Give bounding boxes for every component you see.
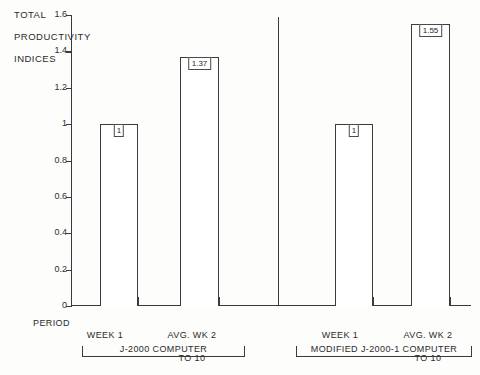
bar-modified-avg-wk2-10: 1.55 [411,24,450,306]
bracket-underline [82,356,245,357]
bar-value-label: 1 [349,124,359,137]
y-axis-title-word-indices: INDICES [14,52,36,65]
bar-value-label: 1 [114,124,124,137]
y-tick-label-1: 1 [62,118,67,128]
y-axis-title: TOTAL PRODUCTIVITY INDICES [14,8,36,65]
x-axis-title-period: PERIOD [33,318,70,328]
y-axis-title-word-productivity: PRODUCTIVITY [14,30,36,43]
bar-value-label: 1.37 [188,57,212,70]
y-tick-label-0: 0 [62,300,67,310]
bracket-underline [296,356,472,357]
x-tick [373,297,374,306]
y-tick-label-0-2: 0.2 [54,264,67,274]
productivity-bar-chart: TOTAL PRODUCTIVITY INDICES 1.6 1.4 1.2 1… [0,0,480,375]
bar-value-label: 1.55 [419,24,443,37]
y-tick-label-0-4: 0.4 [54,227,67,237]
group-label-modified-j2000-1: MODIFIED J-2000-1 COMPUTER [296,344,472,354]
y-tick-label-0-6: 0.6 [54,191,67,201]
group-bracket-modified-j2000-1: MODIFIED J-2000-1 COMPUTER [296,346,472,360]
category-label-modified-week1: WEEK 1 [310,318,370,341]
y-tick-label-0-8: 0.8 [54,155,67,165]
y-axis-title-gap-1 [14,21,36,30]
y-tick-label-1-2: 1.2 [54,82,67,92]
group-label-j2000: J-2000 COMPUTER [82,344,245,354]
group-bracket-j2000: J-2000 COMPUTER [82,346,245,360]
category-label-line1: WEEK 1 [322,330,358,340]
y-axis-title-gap-2 [14,43,36,52]
bar-j2000-week1: 1 [100,124,138,306]
x-tick [219,297,220,306]
category-label-line1: WEEK 1 [87,330,123,340]
y-axis-title-word-total: TOTAL [14,8,36,21]
category-label-line1: AVG. WK 2 [404,330,453,340]
x-tick [450,297,451,306]
group-divider-line [278,17,279,306]
bar-j2000-avg-wk2-10: 1.37 [180,57,219,306]
plot-area: 1.6 1.4 1.2 1 0.8 0.6 0.4 0.2 [71,15,471,306]
y-tick-label-1-6: 1.6 [54,9,67,19]
y-tick-label-1-4: 1.4 [54,45,67,55]
category-label-line1: AVG. WK 2 [168,330,217,340]
bar-modified-week1: 1 [335,124,373,306]
category-label-j2000-week1: WEEK 1 [75,318,135,341]
x-tick [138,297,139,306]
